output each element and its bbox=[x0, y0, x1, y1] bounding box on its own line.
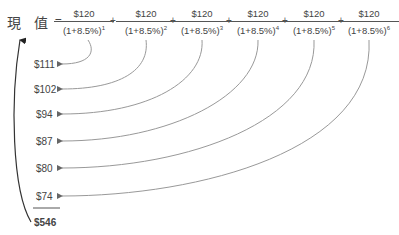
arrow-6 bbox=[62, 40, 369, 196]
arrow-4 bbox=[62, 40, 258, 141]
arrow-5 bbox=[62, 40, 314, 168]
arrow-2 bbox=[62, 40, 146, 89]
total-arrow bbox=[14, 40, 31, 222]
arrow-1 bbox=[62, 40, 91, 64]
arrow-3 bbox=[62, 40, 202, 114]
